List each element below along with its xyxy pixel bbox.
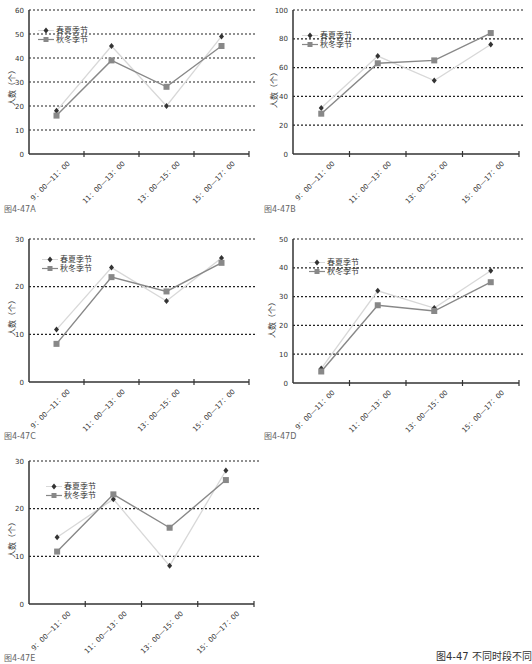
square-marker — [431, 308, 437, 314]
diamond-marker — [55, 534, 60, 540]
y-tick-label: 20 — [15, 283, 24, 291]
y-tick-label: 10 — [15, 127, 24, 135]
x-tick-label: 9：00—11：00 — [30, 610, 73, 653]
square-marker — [431, 57, 437, 63]
y-tick-label: 0 — [284, 380, 288, 388]
diamond-marker-icon — [302, 31, 318, 40]
y-tick-label: 50 — [279, 236, 288, 244]
square-marker — [164, 288, 170, 294]
y-tick-label: 40 — [15, 55, 24, 63]
y-tick-label: 20 — [279, 122, 288, 130]
y-tick-label: 0 — [20, 379, 24, 387]
legend-series2-label: 秋冬季节 — [56, 35, 88, 44]
figure-caption: 图4-47D — [264, 430, 296, 441]
square-marker — [318, 111, 324, 117]
chart-e: 01020309：00—11：0011：00—13：0013：00—15：001… — [0, 450, 264, 640]
x-tick-label: 15：00—17：00 — [196, 610, 242, 656]
x-tick-label: 13：00—15：00 — [136, 388, 182, 434]
square-marker-icon — [302, 40, 318, 49]
diamond-marker-icon — [42, 255, 58, 264]
y-tick-label: 60 — [279, 64, 288, 72]
x-tick-label: 11：00—13：00 — [347, 389, 393, 435]
x-tick-label: 15：00—17：00 — [460, 160, 506, 206]
y-tick-label: 20 — [15, 505, 24, 513]
y-axis-label: 人数（个） — [266, 298, 277, 338]
y-tick-label: 10 — [279, 351, 288, 359]
y-tick-label: 30 — [15, 458, 24, 466]
x-tick-label: 9：00—11：00 — [29, 160, 72, 203]
x-tick-label: 15：00—17：00 — [191, 160, 237, 206]
x-tick-label: 9：00—11：00 — [294, 160, 337, 203]
square-marker — [488, 30, 494, 36]
chart-panel-e: 01020309：00—11：0011：00—13：0013：00—15：001… — [0, 450, 264, 664]
legend-series1-label: 春夏季节 — [320, 31, 352, 40]
square-marker — [54, 549, 60, 555]
legend-series1-label: 春夏季节 — [64, 482, 96, 491]
diamond-marker — [432, 78, 437, 84]
square-marker — [223, 477, 229, 483]
square-marker — [219, 43, 225, 49]
x-tick-label: 9：00—11：00 — [294, 389, 337, 432]
legend-series2-label: 秋冬季节 — [327, 267, 359, 276]
square-marker — [109, 274, 115, 280]
y-tick-label: 0 — [20, 601, 24, 609]
figure-caption: 图4-47B — [264, 203, 296, 214]
chart-panel-d: 010203040509：00—11：0011：00—13：0013：00—15… — [264, 228, 528, 438]
chart-panel-b: 0204060801009：00—11：0011：00—13：0013：00—1… — [264, 0, 528, 210]
diamond-marker-icon — [46, 482, 62, 491]
square-marker — [375, 60, 381, 66]
legend-series2-label: 秋冬季节 — [60, 264, 92, 273]
chart-panel-a: 01020304050609：00—11：0011：00—13：0013：00—… — [0, 0, 264, 210]
x-tick-label: 11：00—13：00 — [347, 160, 393, 206]
legend-series1-label: 春夏季节 — [56, 26, 88, 35]
x-tick-label: 13：00—15：00 — [404, 389, 450, 435]
x-tick-label: 11：00—13：00 — [81, 388, 127, 434]
x-tick-label: 13：00—15：00 — [139, 610, 185, 656]
legend: 春夏季节 秋冬季节 — [38, 26, 88, 44]
x-tick-label: 15：00—17：00 — [191, 388, 237, 434]
legend: 春夏季节 秋冬季节 — [309, 258, 359, 276]
y-tick-label: 60 — [15, 7, 24, 15]
y-tick-label: 40 — [279, 93, 288, 101]
x-tick-label: 11：00—13：00 — [83, 610, 129, 656]
y-axis-label: 人数（个） — [6, 518, 17, 558]
legend-series2-label: 秋冬季节 — [320, 40, 352, 49]
square-marker-icon — [309, 267, 325, 276]
square-marker — [110, 491, 116, 497]
y-tick-label: 20 — [279, 322, 288, 330]
diamond-marker — [488, 268, 493, 274]
figure-caption: 图4-47A — [4, 203, 36, 214]
series-autumn-winter-line — [321, 282, 491, 371]
legend-series1-label: 春夏季节 — [327, 258, 359, 267]
y-tick-label: 100 — [275, 7, 288, 15]
x-tick-label: 13：00—15：00 — [136, 160, 182, 206]
chart-c: 01020309：00—11：0011：00—13：0013：00—15：001… — [0, 228, 264, 418]
diamond-marker — [488, 42, 493, 48]
chart-b: 0204060801009：00—11：0011：00—13：0013：00—1… — [264, 0, 528, 200]
y-tick-label: 0 — [284, 151, 288, 159]
chart-panel-c: 01020309：00—11：0011：00—13：0013：00—15：001… — [0, 228, 264, 438]
legend: 春夏季节 秋冬季节 — [46, 482, 96, 500]
square-marker-icon — [46, 491, 62, 500]
series-spring-summer-line — [321, 45, 491, 108]
legend: 春夏季节 秋冬季节 — [42, 255, 92, 273]
y-axis-label: 人数（个） — [6, 296, 17, 336]
series-autumn-winter-line — [57, 263, 222, 344]
y-tick-label: 50 — [15, 31, 24, 39]
square-marker-icon — [38, 35, 54, 44]
square-marker — [167, 525, 173, 531]
x-tick-label: 13：00—15：00 — [404, 160, 450, 206]
square-marker — [488, 279, 494, 285]
chart-d: 010203040509：00—11：0011：00—13：0013：00—15… — [264, 228, 528, 418]
y-axis-label: 人数（个） — [268, 68, 279, 108]
square-marker-icon — [42, 264, 58, 273]
y-tick-label: 40 — [279, 264, 288, 272]
square-marker — [109, 57, 115, 63]
figure-caption: 图4-47C — [4, 430, 36, 441]
square-marker — [318, 368, 324, 374]
figure-caption: 图4-47E — [4, 652, 35, 663]
y-tick-label: 30 — [279, 293, 288, 301]
x-tick-label: 9：00—11：00 — [29, 388, 72, 431]
square-marker — [164, 84, 170, 90]
legend: 春夏季节 秋冬季节 — [302, 31, 352, 49]
